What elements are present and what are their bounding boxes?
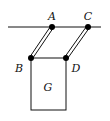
joint-a: [49, 24, 55, 30]
linkage-diagram: A C B D G: [0, 0, 110, 121]
joint-d: [63, 55, 69, 61]
label-g: G: [44, 81, 53, 94]
rod-ab: [30, 26, 53, 59]
joint-c: [85, 24, 91, 30]
label-c: C: [84, 10, 93, 23]
joint-b: [28, 55, 34, 61]
rod-cd: [65, 26, 89, 59]
label-a: A: [47, 10, 56, 23]
label-d: D: [71, 62, 81, 75]
label-b: B: [14, 62, 23, 75]
